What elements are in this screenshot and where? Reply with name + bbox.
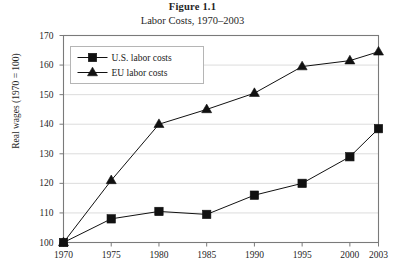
- data-point-marker: [374, 124, 382, 132]
- data-point-marker: [298, 179, 306, 187]
- data-point-marker: [250, 191, 258, 199]
- data-point-marker: [202, 210, 210, 218]
- data-point-marker: [249, 88, 259, 97]
- legend-label: U.S. labor costs: [112, 53, 172, 63]
- data-point-marker: [155, 207, 163, 215]
- series-line: [64, 129, 379, 243]
- chart-legend: U.S. labor costsEU labor costs: [71, 47, 204, 84]
- data-point-marker: [374, 46, 384, 55]
- data-point-marker: [346, 153, 354, 161]
- data-point-marker: [107, 215, 115, 223]
- legend-label: EU labor costs: [112, 68, 168, 78]
- legend-marker: [88, 53, 96, 61]
